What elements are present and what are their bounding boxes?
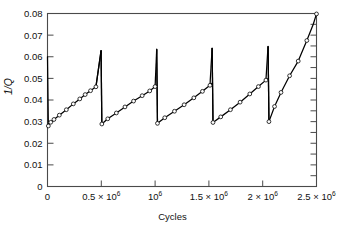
data-point-marker <box>163 116 167 120</box>
y-axis-tick-labels: 00.010.020.030.040.050.060.070.08 <box>24 8 43 192</box>
data-point-marker <box>267 120 271 124</box>
y-axis-minor-ticks-right <box>311 24 317 175</box>
x-axis-label: Cycles <box>0 211 345 222</box>
x-tick-label-3: 1.5 × 106 <box>190 190 229 202</box>
series-drop-4 <box>268 46 269 121</box>
data-point-marker <box>238 100 242 104</box>
series-peak-rise-1 <box>96 51 101 87</box>
x-tick-label-2: 106 <box>148 190 163 202</box>
plot-frame <box>48 14 317 187</box>
data-point-marker <box>132 99 136 103</box>
data-point-marker <box>257 85 261 89</box>
data-point-marker <box>57 113 61 117</box>
x-tick-label-0: 0 <box>45 191 50 202</box>
series-segment-initial-drop <box>48 57 49 126</box>
x-tick-label-1: 0.5 × 106 <box>82 190 121 202</box>
y-tick-label-3: 0.03 <box>24 116 43 127</box>
data-point-marker <box>182 103 186 107</box>
x-tick-label-5: 2.5 × 106 <box>297 190 336 202</box>
data-point-marker <box>153 85 157 89</box>
data-point-marker <box>106 117 110 121</box>
x-axis-ticks <box>101 181 262 187</box>
y-tick-label-7: 0.07 <box>24 30 43 41</box>
data-point-marker <box>208 83 212 87</box>
data-point-marker <box>296 59 300 63</box>
y-tick-label-2: 0.02 <box>24 138 43 149</box>
y-tick-label-1: 0.01 <box>24 159 43 170</box>
y-tick-label-4: 0.04 <box>24 94 43 105</box>
data-point-marker <box>173 109 177 113</box>
y-axis-label: 1/Q <box>2 78 14 95</box>
series-drop-1 <box>101 51 102 124</box>
series-segment-ramp-1 <box>48 51 101 126</box>
data-point-marker <box>46 124 50 128</box>
data-point-marker <box>94 85 98 89</box>
data-point-marker <box>279 91 283 95</box>
data-point-marker <box>211 121 215 125</box>
y-tick-label-6: 0.06 <box>24 51 43 62</box>
data-point-marker <box>49 120 53 124</box>
data-series-line <box>48 14 317 126</box>
data-point-marker <box>201 89 205 93</box>
data-point-markers <box>46 12 318 128</box>
y-tick-label-5: 0.05 <box>24 73 43 84</box>
data-point-marker <box>219 115 223 119</box>
y-tick-label-8: 0.08 <box>24 8 43 19</box>
data-point-marker <box>78 97 82 101</box>
data-point-marker <box>100 122 104 126</box>
data-point-marker <box>273 105 277 109</box>
data-point-marker <box>83 93 87 97</box>
data-point-marker <box>64 108 68 112</box>
y-tick-label-0: 0 <box>37 181 42 192</box>
data-point-marker <box>305 39 309 43</box>
data-point-marker <box>229 108 233 112</box>
data-point-marker <box>148 89 152 93</box>
x-tick-label-4: 2 × 106 <box>248 190 279 202</box>
data-point-marker <box>52 118 56 122</box>
data-point-marker <box>264 78 268 82</box>
chart-figure: 00.010.020.030.040.050.060.070.08 00.5 ×… <box>0 0 345 231</box>
data-point-marker <box>123 105 127 109</box>
data-point-marker <box>140 94 144 98</box>
data-point-marker <box>288 74 292 78</box>
plot-canvas: 00.010.020.030.040.050.060.070.08 00.5 ×… <box>0 0 345 231</box>
data-point-marker <box>192 96 196 100</box>
data-point-marker <box>114 111 118 115</box>
data-point-marker <box>71 102 75 106</box>
data-point-marker <box>156 121 160 125</box>
data-point-marker <box>248 92 252 96</box>
x-axis-tick-labels: 00.5 × 1061061.5 × 1062 × 1062.5 × 106 <box>45 190 336 202</box>
data-point-marker <box>89 89 93 93</box>
data-point-marker <box>315 12 319 16</box>
